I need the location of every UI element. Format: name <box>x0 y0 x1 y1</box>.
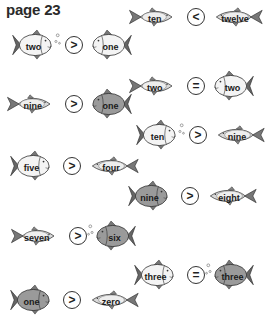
right-number-label: one <box>102 42 118 52</box>
left-fish: ten <box>132 120 182 150</box>
left-number-label: three <box>144 272 166 282</box>
right-fish: two <box>208 71 258 101</box>
left-number-label: nine <box>140 193 159 203</box>
equals-sign-circle[interactable]: = <box>187 266 205 284</box>
left-fish: seven <box>6 226 62 246</box>
right-number-label: three <box>221 272 243 282</box>
right-number-label: two <box>225 83 241 93</box>
right-fish: six <box>90 221 140 251</box>
right-number-label: one <box>102 101 118 111</box>
greater-than-circle[interactable]: > <box>63 157 81 175</box>
right-number-label: twelve <box>221 14 249 24</box>
left-fish: nine <box>2 94 58 114</box>
right-fish: zero <box>84 290 144 310</box>
greater-than-circle[interactable]: > <box>189 126 207 144</box>
left-number-label: two <box>147 83 163 93</box>
equals-sign-circle[interactable]: = <box>187 77 205 95</box>
left-fish: two <box>8 30 58 60</box>
right-fish: nine <box>210 125 268 145</box>
right-fish: four <box>84 156 144 176</box>
right-number-label: zero <box>102 297 121 307</box>
greater-than-circle[interactable]: > <box>65 36 83 54</box>
left-fish: two <box>124 76 180 96</box>
left-number-label: seven <box>24 233 50 243</box>
right-fish: three <box>208 260 258 290</box>
left-fish: nine <box>124 181 174 211</box>
less-than-circle[interactable]: < <box>187 8 205 26</box>
page-title: page 23 <box>6 1 60 18</box>
right-number-label: eight <box>218 193 240 203</box>
greater-than-circle[interactable]: > <box>69 227 87 245</box>
right-number-label: six <box>108 233 121 243</box>
right-fish: twelve <box>208 7 268 27</box>
left-number-label: ten <box>151 132 165 142</box>
left-number-label: two <box>26 42 42 52</box>
left-number-label: five <box>24 163 40 173</box>
left-fish: ten <box>124 7 180 27</box>
left-number-label: nine <box>24 101 43 111</box>
greater-than-circle[interactable]: > <box>63 291 81 309</box>
left-fish: five <box>6 151 56 181</box>
right-fish: eight <box>202 186 262 206</box>
greater-than-circle[interactable]: > <box>65 95 83 113</box>
left-number-label: one <box>23 297 39 307</box>
greater-than-circle[interactable]: > <box>181 187 199 205</box>
right-number-label: four <box>102 163 120 173</box>
right-number-label: nine <box>228 132 247 142</box>
left-fish: three <box>130 260 180 290</box>
left-number-label: ten <box>148 14 162 24</box>
left-fish: one <box>6 285 56 315</box>
right-fish: one <box>86 30 136 60</box>
